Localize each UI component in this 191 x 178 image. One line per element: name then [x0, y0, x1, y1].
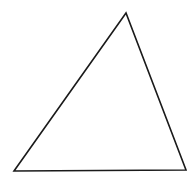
triangle-diagram [0, 0, 191, 178]
triangle-shape [14, 13, 186, 171]
diagram-canvas [0, 0, 191, 178]
